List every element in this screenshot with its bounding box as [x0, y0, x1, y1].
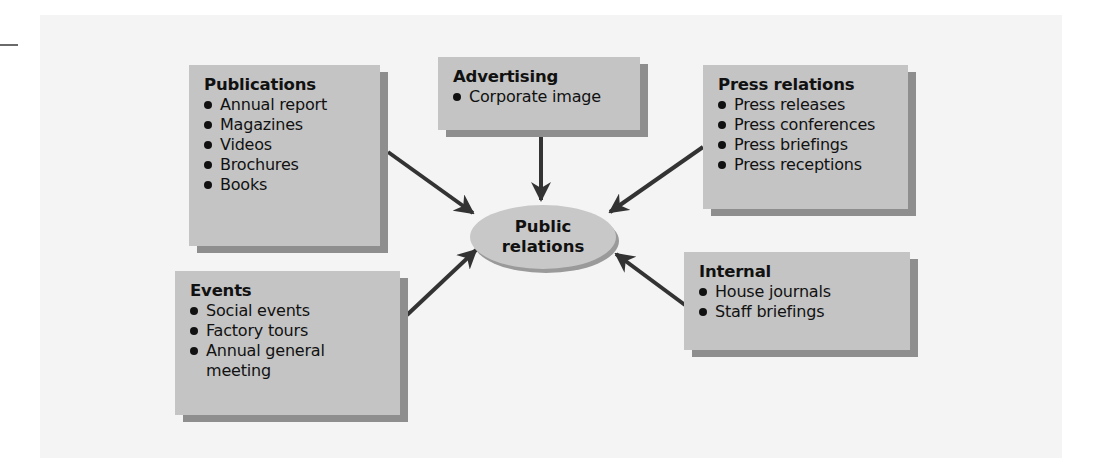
list-item: Staff briefings — [699, 302, 896, 322]
box-items: Corporate image — [453, 87, 626, 107]
box-items: Press releases Press conferences Press b… — [718, 95, 894, 175]
bullet-icon — [204, 121, 212, 129]
bullet-icon — [453, 93, 461, 101]
list-item: Corporate image — [453, 87, 626, 107]
bullet-icon — [718, 121, 726, 129]
arrow-events — [407, 250, 476, 315]
bullet-icon — [190, 307, 198, 315]
box-title: Events — [190, 281, 386, 301]
bullet-icon — [204, 141, 212, 149]
hub-public-relations: Public relations — [470, 205, 616, 269]
list-item: Brochures — [204, 155, 366, 175]
bullet-icon — [190, 327, 198, 335]
box-events: Events Social events Factory tours Annua… — [175, 271, 400, 415]
bullet-icon — [190, 347, 198, 355]
box-items: House journals Staff briefings — [699, 282, 896, 322]
list-item: Books — [204, 175, 366, 195]
arrow-internal — [616, 254, 685, 305]
list-item: Videos — [204, 135, 366, 155]
bullet-icon — [204, 181, 212, 189]
list-item: Press releases — [718, 95, 894, 115]
list-item: Magazines — [204, 115, 366, 135]
list-item-continuation: meeting — [190, 361, 386, 381]
bullet-icon — [699, 308, 707, 316]
list-item: Press conferences — [718, 115, 894, 135]
bullet-icon — [718, 161, 726, 169]
arrow-press-relations — [610, 147, 703, 212]
box-publications: Publications Annual report Magazines Vid… — [189, 65, 380, 246]
list-item: Press receptions — [718, 155, 894, 175]
hub-label-line1: Public — [515, 217, 572, 237]
bullet-icon — [204, 161, 212, 169]
box-items: Annual report Magazines Videos Brochures… — [204, 95, 366, 195]
box-press-relations: Press relations Press releases Press con… — [703, 65, 908, 209]
list-item: Press briefings — [718, 135, 894, 155]
box-items: Social events Factory tours Annual gener… — [190, 301, 386, 381]
box-advertising: Advertising Corporate image — [438, 57, 640, 130]
box-title: Press relations — [718, 75, 894, 95]
bullet-icon — [699, 288, 707, 296]
hub-label-line2: relations — [502, 237, 585, 257]
box-internal: Internal House journals Staff briefings — [684, 252, 910, 350]
arrow-publications — [388, 152, 473, 213]
box-title: Publications — [204, 75, 366, 95]
list-item: Social events — [190, 301, 386, 321]
box-title: Advertising — [453, 67, 626, 87]
list-item: Factory tours — [190, 321, 386, 341]
bullet-icon — [718, 141, 726, 149]
list-item: Annual report — [204, 95, 366, 115]
list-item: House journals — [699, 282, 896, 302]
list-item: Annual general — [190, 341, 386, 361]
box-title: Internal — [699, 262, 896, 282]
bullet-icon — [718, 101, 726, 109]
bullet-icon — [204, 101, 212, 109]
